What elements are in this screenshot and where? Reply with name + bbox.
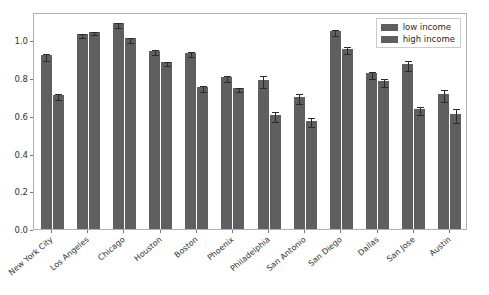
y-tick-mark [30, 155, 33, 156]
error-bar-cap [441, 102, 448, 103]
y-tick-label: 1.0 [14, 36, 28, 46]
error-bar-cap [332, 30, 339, 31]
error-bar-cap [308, 127, 315, 128]
x-tick-mark [232, 230, 233, 233]
error-bar-cap [224, 82, 231, 83]
bar [185, 53, 196, 229]
error-bar-cap [152, 55, 159, 56]
error-bar-line [263, 76, 264, 87]
error-bar-line [311, 118, 312, 126]
error-bar-line [456, 109, 457, 123]
bar [258, 80, 269, 229]
error-bar-line [299, 94, 300, 103]
error-bar-line [408, 61, 409, 72]
error-bar-cap [296, 94, 303, 95]
error-bar-cap [164, 66, 171, 67]
error-bar-cap [236, 88, 243, 89]
legend-swatch-icon [381, 24, 398, 31]
y-tick-label: 0.0 [14, 225, 28, 235]
error-bar-cap [55, 94, 62, 95]
bar [197, 87, 208, 229]
error-bar-cap [200, 92, 207, 93]
x-tick-mark [413, 230, 414, 233]
bar [221, 77, 232, 229]
error-bar-line [275, 112, 276, 121]
error-bar-cap [453, 109, 460, 110]
error-bar-cap [260, 76, 267, 77]
x-tick-mark [268, 230, 269, 233]
error-bar-cap [91, 32, 98, 33]
error-bar-cap [272, 112, 279, 113]
error-bar-cap [200, 86, 207, 87]
bar [270, 115, 281, 229]
legend-item-low-income: low income [381, 22, 455, 32]
error-bar-cap [79, 34, 86, 35]
error-bar-cap [296, 104, 303, 105]
bar [342, 49, 353, 229]
y-tick-mark [30, 41, 33, 42]
bar-chart-figure: low incomehigh income 0.00.20.40.60.81.0… [0, 0, 489, 295]
error-bar-cap [152, 50, 159, 51]
bar [77, 34, 88, 229]
y-tick-mark [30, 230, 33, 231]
error-bar-cap [381, 79, 388, 80]
y-tick-label: 0.8 [14, 74, 28, 84]
y-tick-label: 0.4 [14, 150, 28, 160]
legend-swatch-icon [381, 36, 398, 43]
error-bar-cap [188, 57, 195, 58]
bar [294, 97, 305, 229]
error-bar-cap [127, 38, 134, 39]
x-tick-mark [160, 230, 161, 233]
error-bar-cap [236, 92, 243, 93]
x-tick-mark [340, 230, 341, 233]
x-tick-label: New York City [0, 235, 55, 287]
error-bar-line [384, 79, 385, 87]
x-tick-mark [123, 230, 124, 233]
error-bar-cap [405, 71, 412, 72]
bar [378, 81, 389, 229]
error-bar-cap [344, 54, 351, 55]
error-bar-line [347, 47, 348, 54]
error-bar-cap [55, 100, 62, 101]
y-tick-label: 0.2 [14, 187, 28, 197]
bar [306, 121, 317, 230]
bar [125, 38, 136, 229]
bar [41, 55, 52, 229]
error-bar-line [372, 72, 373, 79]
error-bar-cap [272, 122, 279, 123]
error-bar-cap [79, 38, 86, 39]
error-bar-cap [441, 90, 448, 91]
bar [330, 31, 341, 229]
error-bar-cap [115, 28, 122, 29]
error-bar-line [420, 107, 421, 115]
error-bar-cap [405, 61, 412, 62]
error-bar-cap [115, 23, 122, 24]
y-tick-mark [30, 79, 33, 80]
error-bar-cap [369, 72, 376, 73]
error-bar-cap [332, 36, 339, 37]
x-tick-mark [377, 230, 378, 233]
legend-item-high-income: high income [381, 34, 455, 44]
error-bar-cap [91, 35, 98, 36]
error-bar-cap [417, 107, 424, 108]
y-tick-mark [30, 117, 33, 118]
y-tick-label: 0.6 [14, 112, 28, 122]
chart-legend: low incomehigh income [376, 18, 461, 48]
legend-label: high income [403, 34, 455, 44]
x-tick-mark [87, 230, 88, 233]
error-bar-cap [224, 76, 231, 77]
bar [366, 73, 377, 229]
error-bar-cap [43, 54, 50, 55]
bar [414, 109, 425, 229]
error-bar-cap [188, 52, 195, 53]
error-bar-cap [260, 88, 267, 89]
bar [161, 62, 172, 229]
x-tick-mark [304, 230, 305, 233]
error-bar-cap [417, 115, 424, 116]
error-bar-line [444, 90, 445, 102]
bar [233, 88, 244, 229]
error-bar-cap [369, 79, 376, 80]
legend-label: low income [403, 22, 451, 32]
error-bar-cap [164, 62, 171, 63]
x-tick-mark [51, 230, 52, 233]
